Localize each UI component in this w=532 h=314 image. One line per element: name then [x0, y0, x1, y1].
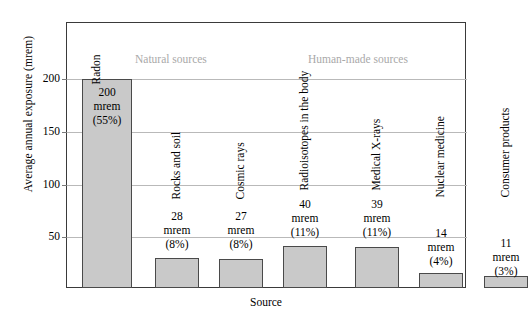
group-label-human-made-sources: Human-made sources — [308, 53, 408, 65]
bar-value-pct-cosmic-rays: (8%) — [215, 237, 267, 251]
bar-value-number-nuclear-medicine: 14 — [415, 226, 467, 240]
bar-value-pct-radioisotopes-in-the-body: (11%) — [279, 225, 331, 239]
bar-value-nuclear-medicine: 14 mrem (4%) — [415, 226, 467, 268]
bar-value-number-rocks-and-soil: 28 — [151, 209, 203, 223]
bar-value-pct-radon: (55%) — [82, 113, 132, 127]
bar-value-radioisotopes-in-the-body: 40 mrem (11%) — [279, 197, 331, 239]
bar-radioisotopes-in-the-body — [283, 246, 327, 288]
bar-cosmic-rays — [219, 259, 263, 288]
bar-value-unit-consumer-products: mrem — [480, 250, 532, 264]
bar-label-nuclear-medicine: Nuclear medicine — [435, 116, 447, 197]
bar-label-medical-x-rays: Medical X-rays — [371, 119, 383, 191]
bar-value-number-cosmic-rays: 27 — [215, 209, 267, 223]
bar-medical-x-rays — [355, 247, 399, 288]
bar-value-unit-rocks-and-soil: mrem — [151, 223, 203, 237]
plot-area: Natural sources Human-made sources Radon… — [66, 22, 466, 288]
y-tick-mark-150 — [62, 132, 67, 133]
bar-value-pct-consumer-products: (3%) — [480, 264, 532, 278]
bar-value-number-radon: 200 — [82, 85, 132, 99]
bar-nuclear-medicine — [419, 273, 463, 288]
bar-value-unit-nuclear-medicine: mrem — [415, 240, 467, 254]
bar-value-pct-medical-x-rays: (11%) — [351, 225, 403, 239]
bar-label-rocks-and-soil: Rocks and soil — [171, 132, 183, 200]
y-tick-label-50: 50 — [14, 231, 60, 243]
y-tick-label-100: 100 — [14, 179, 60, 191]
bar-value-rocks-and-soil: 28 mrem (8%) — [151, 209, 203, 251]
bar-value-pct-rocks-and-soil: (8%) — [151, 237, 203, 251]
bar-value-unit-medical-x-rays: mrem — [351, 211, 403, 225]
bar-value-unit-radioisotopes-in-the-body: mrem — [279, 211, 331, 225]
bar-value-pct-nuclear-medicine: (4%) — [415, 254, 467, 268]
bar-rocks-and-soil — [155, 258, 199, 288]
group-label-natural-sources: Natural sources — [135, 53, 207, 65]
bar-value-number-radioisotopes-in-the-body: 40 — [279, 197, 331, 211]
bar-value-number-medical-x-rays: 39 — [351, 197, 403, 211]
bar-value-medical-x-rays: 39 mrem (11%) — [351, 197, 403, 239]
bar-value-unit-radon: mrem — [82, 99, 132, 113]
x-axis-title: Source — [66, 296, 466, 308]
bar-value-consumer-products: 11 mrem (3%) — [480, 236, 532, 278]
bar-label-radon: Radon — [91, 54, 103, 84]
y-tick-label-150: 150 — [14, 126, 60, 138]
y-tick-mark-50 — [62, 237, 67, 238]
bar-value-cosmic-rays: 27 mrem (8%) — [215, 209, 267, 251]
bar-value-number-consumer-products: 11 — [480, 236, 532, 250]
bar-value-unit-cosmic-rays: mrem — [215, 223, 267, 237]
bar-label-cosmic-rays: Cosmic rays — [235, 142, 247, 199]
bar-value-radon: 200 mrem (55%) — [82, 85, 132, 127]
y-tick-label-200: 200 — [14, 73, 60, 85]
bar-label-radioisotopes-in-the-body: Radioisotopes in the body — [299, 71, 311, 191]
y-tick-mark-200 — [62, 79, 67, 80]
bar-label-consumer-products: Consumer products — [500, 108, 512, 198]
y-tick-mark-100 — [62, 185, 67, 186]
